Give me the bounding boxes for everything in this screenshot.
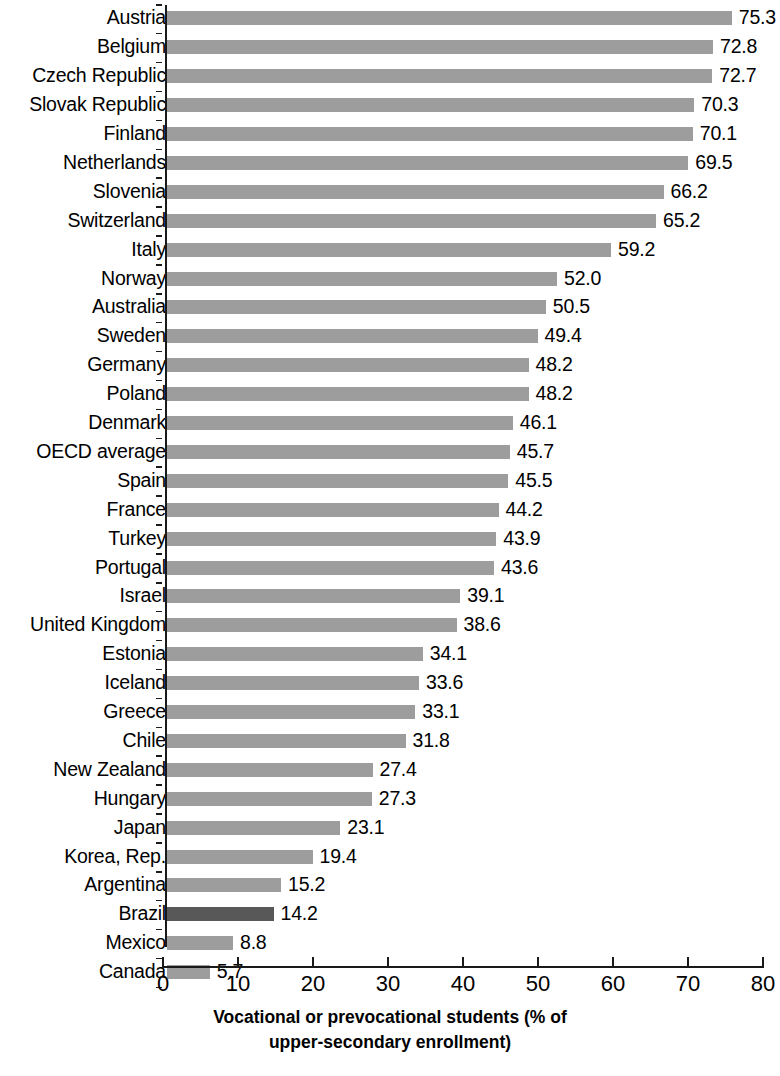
- bar: [167, 907, 274, 921]
- bar: [167, 589, 460, 603]
- bar-row: Mexico8.8: [0, 929, 780, 958]
- bar-row: Iceland33.6: [0, 669, 780, 698]
- bar-value-label: 48.2: [536, 355, 573, 375]
- bar-value-label: 34.1: [430, 644, 467, 664]
- bar-row: Argentina15.2: [0, 871, 780, 900]
- bar-row: Greece33.1: [0, 698, 780, 727]
- y-axis-line: [165, 5, 167, 947]
- x-axis-tick-label: 60: [601, 973, 625, 995]
- y-axis-tick: [156, 380, 162, 382]
- category-label: United Kingdom: [30, 616, 166, 636]
- bar-row: Chile31.8: [0, 727, 780, 756]
- y-axis-tick: [156, 611, 162, 613]
- bar: [167, 503, 499, 517]
- category-label: Slovenia: [93, 182, 166, 202]
- y-axis-tick: [156, 62, 162, 64]
- bar: [167, 156, 688, 170]
- y-axis-tick: [156, 582, 162, 584]
- category-label: Netherlands: [63, 153, 166, 173]
- y-axis-tick: [156, 553, 162, 555]
- category-label: Hungary: [94, 789, 166, 809]
- bar-value-label: 23.1: [347, 818, 384, 838]
- bar: [167, 763, 373, 777]
- x-axis-tick: [162, 957, 164, 968]
- bar: [167, 676, 419, 690]
- bar: [167, 69, 712, 83]
- category-label: Norway: [101, 269, 166, 289]
- bar-row: Slovak Republic70.3: [0, 91, 780, 120]
- x-axis-tick-label: 50: [526, 973, 550, 995]
- bar-value-label: 44.2: [506, 500, 543, 520]
- x-axis-tick-label: 30: [376, 973, 400, 995]
- bar: [167, 705, 415, 719]
- category-label: Japan: [114, 818, 166, 838]
- y-axis-tick: [156, 813, 162, 815]
- category-label: Switzerland: [67, 211, 166, 231]
- bar-value-label: 19.4: [320, 847, 357, 867]
- bar-value-label: 31.8: [413, 731, 450, 751]
- category-label: Turkey: [108, 529, 166, 549]
- category-label: Australia: [92, 298, 166, 318]
- bar: [167, 532, 496, 546]
- bar: [167, 98, 694, 112]
- bar: [167, 300, 546, 314]
- y-axis-tick: [156, 91, 162, 93]
- bar: [167, 329, 538, 343]
- bar: [167, 127, 693, 141]
- category-label: Germany: [87, 355, 166, 375]
- x-axis-tick-label: 40: [451, 973, 475, 995]
- bar-value-label: 50.5: [553, 298, 590, 318]
- category-label: Estonia: [102, 644, 166, 664]
- bar-value-label: 45.7: [517, 442, 554, 462]
- bar-value-label: 49.4: [545, 327, 582, 347]
- y-axis-tick: [156, 524, 162, 526]
- category-label: Mexico: [105, 933, 166, 953]
- bar-value-label: 38.6: [464, 616, 501, 636]
- x-axis-tick-label: 10: [226, 973, 250, 995]
- bar-row: France44.2: [0, 495, 780, 524]
- bar-value-label: 8.8: [240, 933, 267, 953]
- bar-row: Finland70.1: [0, 120, 780, 149]
- bar-value-label: 48.2: [536, 384, 573, 404]
- bar: [167, 358, 529, 372]
- category-label: Portugal: [95, 558, 166, 578]
- category-label: Belgium: [97, 38, 166, 58]
- bar-row: Poland48.2: [0, 380, 780, 409]
- bar-value-label: 43.6: [501, 558, 538, 578]
- x-axis-title: Vocational or prevocational students (% …: [0, 1005, 780, 1056]
- y-axis-tick: [156, 4, 162, 6]
- bar: [167, 561, 494, 575]
- bar-value-label: 75.3: [739, 9, 776, 29]
- bar-row: OECD average45.7: [0, 438, 780, 467]
- x-axis-tick: [462, 957, 464, 968]
- bar-row: Austria75.3: [0, 4, 780, 33]
- bar: [167, 821, 340, 835]
- y-axis-tick: [156, 640, 162, 642]
- x-axis-tick-label: 0: [157, 973, 169, 995]
- bar-value-label: 43.9: [503, 529, 540, 549]
- bar-value-label: 70.3: [701, 95, 738, 115]
- y-axis-tick: [156, 33, 162, 35]
- bar: [167, 792, 372, 806]
- category-label: Poland: [106, 384, 166, 404]
- bar: [167, 474, 508, 488]
- bar-row: New Zealand27.4: [0, 755, 780, 784]
- bar: [167, 647, 423, 661]
- y-axis-tick: [156, 466, 162, 468]
- bar-value-label: 27.3: [379, 789, 416, 809]
- y-axis-tick: [156, 293, 162, 295]
- bar-row: Korea, Rep.19.4: [0, 842, 780, 871]
- bar-value-label: 52.0: [564, 269, 601, 289]
- bar-row: Denmark46.1: [0, 409, 780, 438]
- bar-value-label: 27.4: [380, 760, 417, 780]
- bar-value-label: 15.2: [288, 876, 325, 896]
- category-label: Argentina: [84, 876, 166, 896]
- y-axis-tick: [156, 264, 162, 266]
- bar: [167, 11, 732, 25]
- bar-row: Turkey43.9: [0, 524, 780, 553]
- y-axis-tick: [156, 900, 162, 902]
- category-label: New Zealand: [53, 760, 166, 780]
- bar-row: Japan23.1: [0, 813, 780, 842]
- bar: [167, 936, 233, 950]
- bar: [167, 416, 513, 430]
